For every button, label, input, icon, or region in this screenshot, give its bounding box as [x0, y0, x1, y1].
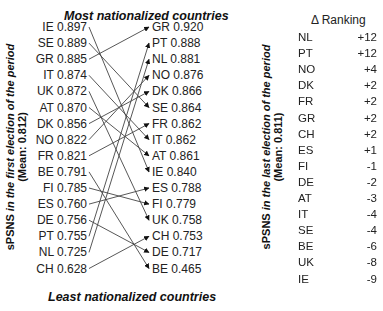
last-election-item: DK 0.866	[152, 84, 202, 98]
last-election-item: CH 0.753	[152, 229, 203, 243]
ranking-delta: +2	[347, 112, 377, 124]
first-election-item: NL 0.725	[39, 245, 87, 259]
ranking-country: FI	[298, 160, 308, 172]
link-gr	[89, 27, 149, 59]
last-election-item: AT 0.861	[152, 149, 200, 163]
link-at	[89, 108, 149, 156]
first-election-item: FR 0.821	[38, 149, 87, 163]
ranking-delta: +2	[347, 95, 377, 107]
ranking-country: UK	[298, 256, 314, 268]
ranking-country: PT	[298, 47, 313, 59]
link-ie	[89, 27, 149, 172]
first-election-item: AT 0.870	[39, 101, 87, 115]
last-election-item: SE 0.864	[152, 101, 201, 115]
first-election-item: DK 0.856	[37, 117, 87, 131]
link-pt	[89, 43, 149, 236]
link-se	[89, 43, 149, 107]
ranking-delta: -4	[347, 208, 377, 220]
ranking-delta: -8	[347, 256, 377, 268]
first-election-item: BE 0.791	[38, 165, 87, 179]
ranking-delta: -3	[347, 192, 377, 204]
ranking-country: NO	[298, 63, 315, 75]
ranking-delta: -9	[347, 273, 377, 285]
first-election-item: IT 0.874	[43, 68, 87, 82]
ranking-country: FR	[298, 95, 313, 107]
ranking-delta: +12	[347, 47, 377, 59]
first-election-item: PT 0.755	[39, 229, 87, 243]
first-election-item: CH 0.628	[36, 262, 87, 276]
ranking-country: IE	[298, 273, 309, 285]
link-de	[89, 220, 149, 252]
ranking-delta: +1	[347, 144, 377, 156]
ranking-country: SE	[298, 224, 313, 236]
ranking-country: IT	[298, 208, 308, 220]
last-election-item: IE 0.840	[152, 165, 197, 179]
last-election-item: GR 0.920	[152, 20, 203, 34]
ranking-delta: -4	[347, 224, 377, 236]
first-election-item: ES 0.760	[38, 197, 87, 211]
last-election-item: BE 0.465	[152, 262, 201, 276]
link-nl	[89, 59, 149, 252]
first-election-item: DE 0.756	[37, 213, 87, 227]
ranking-country: ES	[298, 144, 313, 156]
last-election-item: ES 0.788	[152, 181, 201, 195]
last-election-item: PT 0.888	[152, 36, 200, 50]
last-election-item: NL 0.881	[152, 52, 200, 66]
last-election-item: NO 0.876	[152, 68, 203, 82]
first-election-item: NO 0.822	[36, 133, 87, 147]
last-election-item: DE 0.717	[152, 245, 202, 259]
ranking-delta: -6	[347, 240, 377, 252]
ranking-delta: +2	[347, 128, 377, 140]
ranking-delta: +4	[347, 63, 377, 75]
link-ch	[89, 236, 149, 268]
ranking-delta: -2	[347, 176, 377, 188]
ranking-country: AT	[298, 192, 312, 204]
ranking-header: Δ Ranking	[311, 13, 366, 27]
last-election-item: FR 0.862	[152, 117, 201, 131]
last-election-item: FI 0.779	[152, 197, 196, 211]
ranking-country: DK	[298, 79, 314, 91]
ranking-delta: -1	[347, 160, 377, 172]
first-election-item: SE 0.889	[38, 36, 87, 50]
first-election-item: IE 0.897	[42, 20, 87, 34]
last-election-item: UK 0.758	[152, 213, 202, 227]
last-election-item: IT 0.862	[152, 133, 196, 147]
link-be	[89, 172, 149, 269]
ranking-delta: +12	[347, 31, 377, 43]
ranking-country: BE	[298, 240, 313, 252]
ranking-country: GR	[298, 112, 315, 124]
ranking-country: NL	[298, 31, 313, 43]
ranking-country: DE	[298, 176, 314, 188]
first-election-item: UK 0.872	[37, 84, 87, 98]
first-election-item: FI 0.785	[43, 181, 87, 195]
ranking-country: CH	[298, 128, 315, 140]
first-election-item: GR 0.885	[36, 52, 87, 66]
ranking-delta: +2	[347, 79, 377, 91]
